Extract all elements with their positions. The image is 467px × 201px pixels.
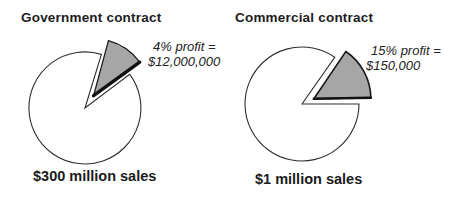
chart-title-commercial: Commercial contract <box>235 10 373 25</box>
annotation-line1: 15% profit = <box>366 44 441 59</box>
profit-annotation-government: 4% profit = $12,000,000 <box>148 40 220 69</box>
annotation-line2: $150,000 <box>366 59 441 74</box>
slice-shadow-edge <box>314 98 371 99</box>
profit-comparison-figure: Government contract 4% profit = $12,000,… <box>0 0 467 201</box>
sales-label-government: $300 million sales <box>33 168 156 184</box>
profit-annotation-commercial: 15% profit = $150,000 <box>366 44 441 73</box>
chart-title-government: Government contract <box>21 10 161 25</box>
annotation-line2: $12,000,000 <box>148 55 220 70</box>
sales-label-commercial: $1 million sales <box>255 171 362 187</box>
annotation-line1: 4% profit = <box>148 40 220 55</box>
